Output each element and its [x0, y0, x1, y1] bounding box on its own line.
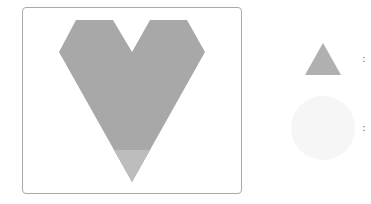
legend-triangle-separator: :: [362, 52, 366, 65]
legend-circle-icon: [291, 96, 355, 160]
legend-circle-separator: :: [362, 121, 366, 134]
bottom-triangle-piece[interactable]: [114, 150, 150, 182]
legend-triangle-icon: [305, 43, 341, 75]
puzzle-canvas: [0, 0, 371, 204]
